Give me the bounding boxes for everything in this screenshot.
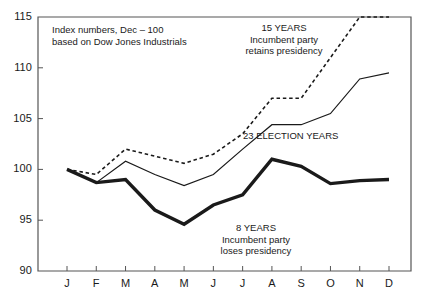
- x-tick-label-feb: F: [86, 277, 106, 289]
- x-tick-label-oct: O: [320, 277, 340, 289]
- x-tick-label-aug: A: [262, 277, 282, 289]
- y-tick-label-110: 110: [2, 61, 32, 73]
- x-tick-label-jan: J: [57, 277, 77, 289]
- y-tick-label-105: 105: [2, 112, 32, 124]
- series-label-15-years-sub2: retains presidency: [228, 45, 340, 57]
- x-tick-label-nov: N: [350, 277, 370, 289]
- chart-note-line-2: based on Dow Jones Industrials: [52, 36, 187, 48]
- x-tick-label-mar: M: [116, 277, 136, 289]
- x-tick-label-apr: A: [145, 277, 165, 289]
- series-label-8-years: 8 YEARS Incumbent party loses presidency: [200, 222, 312, 257]
- series-label-23-election-years: 23 ELECTION YEARS: [243, 130, 338, 142]
- y-tick-label-95: 95: [2, 213, 32, 225]
- x-tick-label-may: M: [174, 277, 194, 289]
- x-tick-label-sep: S: [291, 277, 311, 289]
- series-label-15-years: 15 YEARS Incumbent party retains preside…: [228, 22, 340, 57]
- y-tick-label-100: 100: [2, 162, 32, 174]
- series-label-8-years-sub2: loses presidency: [200, 245, 312, 257]
- series-label-15-years-sub1: Incumbent party: [228, 34, 340, 46]
- chart-note: Index numbers, Dec – 100 based on Dow Jo…: [52, 24, 187, 47]
- chart-note-line-1: Index numbers, Dec – 100: [52, 24, 187, 36]
- series-label-23-election-years-title: 23 ELECTION YEARS: [243, 130, 338, 142]
- series-label-8-years-sub1: Incumbent party: [200, 234, 312, 246]
- y-tick-label-90: 90: [2, 264, 32, 276]
- x-tick-label-dec: D: [379, 277, 399, 289]
- series-label-15-years-title: 15 YEARS: [228, 22, 340, 34]
- x-tick-label-jun: J: [203, 277, 223, 289]
- chart-container: 115 110 105 100 95 90 J F M A M J J A S …: [0, 0, 423, 301]
- series-line-1: [67, 73, 389, 186]
- y-tick-label-115: 115: [2, 10, 32, 22]
- series-label-8-years-title: 8 YEARS: [200, 222, 312, 234]
- x-tick-label-jul: J: [233, 277, 253, 289]
